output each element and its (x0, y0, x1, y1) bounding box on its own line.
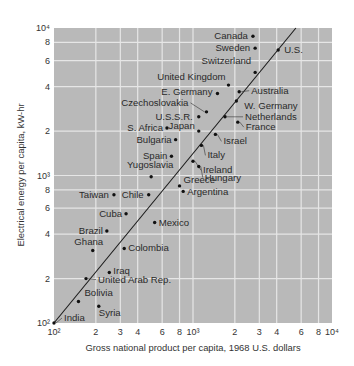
point-marker (253, 71, 256, 74)
point-label: Taiwan (79, 189, 109, 200)
x-tick-label: 10³ (186, 327, 199, 337)
point-label: Cuba (99, 208, 123, 219)
point-label: Italy (207, 149, 225, 160)
point-marker (197, 129, 200, 132)
point-marker (197, 115, 200, 118)
data-point: W. Germany (235, 99, 298, 111)
point-label: France (246, 121, 276, 132)
y-tick-label: 8 (45, 37, 50, 47)
point-marker (197, 165, 200, 168)
point-label: Japan (169, 120, 195, 131)
point-label: Israel (223, 135, 246, 146)
x-tick-label: 10⁴ (325, 327, 339, 337)
data-point: Bulgaria (136, 134, 177, 145)
x-tick-label: 8 (316, 327, 321, 337)
x-tick-label: 6 (299, 327, 304, 337)
point-label: Syria (99, 307, 122, 318)
y-axis-title: Electrical energy per capita, kW-hr (15, 103, 26, 246)
data-point: Mexico (153, 217, 189, 228)
point-marker (170, 155, 173, 158)
point-label: Colombia (128, 242, 169, 253)
point-label: Ghana (74, 236, 103, 247)
point-marker (181, 190, 184, 193)
point-label: S. Africa (127, 122, 163, 133)
x-tick-label: 2 (232, 327, 237, 337)
x-tick-label: 2 (93, 327, 98, 337)
point-label: Netherlands (245, 111, 297, 122)
point-label: Canada (214, 30, 248, 41)
point-label: Chile (122, 189, 144, 200)
point-label: Yugoslavia (127, 159, 174, 170)
y-tick-label: 10⁴ (36, 23, 50, 33)
point-label: United Arab Rep. (98, 274, 171, 285)
y-tick-label: 10² (37, 318, 50, 328)
x-axis-title: Gross national product per capita, 1968 … (85, 342, 301, 353)
point-marker (52, 321, 55, 324)
x-tick-label: 3 (257, 327, 262, 337)
data-point: Syria (97, 304, 121, 318)
point-label: Greece (184, 174, 215, 185)
point-marker (123, 247, 126, 250)
point-label: Sweden (215, 42, 250, 53)
point-marker (216, 92, 219, 95)
y-axis-ticks: 10²246810³246810⁴ (36, 23, 50, 328)
y-tick-label: 10³ (37, 171, 50, 181)
point-label: United Kingdom (157, 71, 225, 82)
point-marker (149, 175, 152, 178)
point-marker (200, 144, 203, 147)
y-tick-label: 2 (45, 274, 50, 284)
point-marker (214, 133, 217, 136)
y-tick-label: 6 (45, 203, 50, 213)
point-marker (205, 110, 208, 113)
point-label: E. Germany (161, 86, 212, 97)
point-label: India (64, 312, 85, 323)
point-marker (174, 138, 177, 141)
point-label: Bolivia (84, 287, 113, 298)
point-marker (276, 48, 279, 51)
data-point: E. Germany (161, 86, 219, 97)
point-label: W. Germany (244, 100, 298, 111)
point-label: Czechoslovakia (121, 97, 189, 108)
x-tick-label: 8 (177, 327, 182, 337)
y-tick-label: 2 (45, 126, 50, 136)
point-marker (191, 160, 194, 163)
scatter-chart: 10²2346810³2346810⁴ 10²246810³246810⁴ Ca… (0, 0, 354, 366)
data-point: Colombia (123, 242, 170, 253)
point-label: U.S. (284, 44, 303, 55)
data-point: S. Africa (127, 122, 168, 133)
point-marker (84, 277, 87, 280)
data-point: Argentina (181, 186, 228, 197)
x-tick-label: 3 (118, 327, 123, 337)
point-label: Bulgaria (136, 134, 172, 145)
point-label: Switzerland (202, 55, 252, 66)
point-marker (227, 83, 230, 86)
point-marker (223, 115, 226, 118)
point-marker (91, 249, 94, 252)
point-marker (178, 184, 181, 187)
point-label: Brazil (79, 225, 103, 236)
point-marker (112, 193, 115, 196)
x-tick-label: 10² (47, 327, 60, 337)
point-marker (238, 90, 241, 93)
point-marker (105, 229, 108, 232)
point-marker (253, 46, 256, 49)
point-marker (147, 193, 150, 196)
point-marker (77, 300, 80, 303)
x-tick-label: 4 (135, 327, 140, 337)
x-tick-label: 6 (160, 327, 165, 337)
point-label: Argentina (187, 186, 229, 197)
data-point: United Arab Rep. (84, 274, 171, 285)
y-tick-label: 6 (45, 56, 50, 66)
y-tick-label: 8 (45, 185, 50, 195)
point-label: Mexico (159, 217, 189, 228)
x-tick-label: 4 (274, 327, 279, 337)
point-marker (235, 99, 238, 102)
y-tick-label: 4 (45, 229, 50, 239)
point-marker (153, 221, 156, 224)
point-marker (236, 120, 239, 123)
y-tick-label: 4 (45, 82, 50, 92)
point-marker (124, 212, 127, 215)
point-marker (251, 34, 254, 37)
point-label: Australia (251, 85, 289, 96)
x-axis-ticks: 10²2346810³2346810⁴ (47, 327, 339, 337)
